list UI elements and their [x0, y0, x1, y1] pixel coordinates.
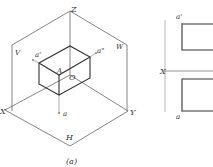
- label-a-prime: a': [35, 51, 41, 59]
- label-z: Z: [70, 5, 77, 14]
- figure-caption: (a): [66, 157, 77, 166]
- label-x-ortho: X: [159, 67, 166, 76]
- label-a-ortho: a: [176, 113, 180, 121]
- w-plane-edge: [70, 11, 127, 111]
- x-axis: [5, 75, 70, 110]
- label-h: H: [65, 133, 74, 142]
- y-axis: [70, 75, 128, 111]
- orthographic-view: [164, 20, 213, 112]
- label-y: Y: [130, 108, 136, 117]
- label-a-prime-ortho: a': [176, 13, 182, 21]
- box-solid: [39, 46, 90, 95]
- label-x: X: [0, 107, 6, 116]
- point-a-prime: [32, 59, 34, 61]
- label-O: O: [69, 73, 76, 82]
- v-plane-edge: [12, 11, 70, 111]
- label-w: W: [116, 43, 124, 51]
- point-a: [58, 112, 60, 114]
- label-a-double-prime: a": [97, 47, 104, 55]
- point-a-prime-ortho: [181, 23, 183, 25]
- label-v: V: [15, 49, 21, 57]
- projection-lines: [33, 53, 96, 113]
- label-A: A: [56, 67, 62, 75]
- point-a-ortho: [181, 110, 183, 112]
- label-a: a: [63, 110, 67, 118]
- projection-diagram: Z X Y V W H a' a" A O a (a) a' X a: [0, 0, 213, 167]
- isometric-view: [5, 11, 128, 146]
